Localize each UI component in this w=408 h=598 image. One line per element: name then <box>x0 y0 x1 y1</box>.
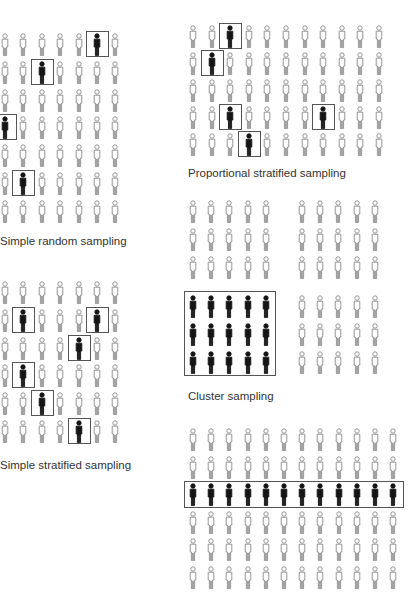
person-icon <box>245 52 253 76</box>
person-icon <box>353 323 361 347</box>
person-icon <box>75 61 83 85</box>
person-icon <box>375 25 383 49</box>
person-icon <box>75 200 83 224</box>
person-icon <box>38 144 46 168</box>
person-icon <box>353 456 361 480</box>
person-icon <box>280 428 288 452</box>
person-icon <box>207 538 215 562</box>
person-icon <box>298 256 306 280</box>
person-icon <box>1 364 9 388</box>
person-icon <box>298 511 306 535</box>
person-icon <box>338 79 346 103</box>
person-icon <box>335 456 343 480</box>
person-icon <box>334 351 342 375</box>
person-icon <box>207 228 215 252</box>
person-icon <box>371 511 379 535</box>
person-icon <box>19 337 27 361</box>
person-icon <box>1 420 9 444</box>
selection-box <box>0 114 17 140</box>
person-icon <box>1 309 9 333</box>
person-icon <box>335 511 343 535</box>
person-icon <box>316 228 324 252</box>
person-icon <box>111 61 119 85</box>
person-icon <box>244 228 252 252</box>
person-icon <box>353 511 361 535</box>
person-icon <box>189 256 197 280</box>
person-icon <box>335 566 343 590</box>
person-icon <box>244 566 252 590</box>
person-icon <box>282 133 290 157</box>
person-icon <box>56 116 64 140</box>
person-icon <box>75 33 83 57</box>
person-icon <box>298 295 306 319</box>
person-icon <box>207 456 215 480</box>
person-icon <box>19 392 27 416</box>
person-icon <box>111 200 119 224</box>
person-icon <box>298 538 306 562</box>
person-icon <box>1 337 9 361</box>
person-icon <box>208 25 216 49</box>
person-icon <box>189 456 197 480</box>
person-icon <box>93 337 101 361</box>
person-icon <box>356 133 364 157</box>
person-icon <box>111 309 119 333</box>
person-icon <box>244 511 252 535</box>
person-icon <box>375 79 383 103</box>
person-icon <box>1 392 9 416</box>
person-icon <box>353 200 361 224</box>
person-icon <box>301 79 309 103</box>
person-icon <box>262 256 270 280</box>
person-icon <box>316 323 324 347</box>
person-icon <box>1 33 9 57</box>
person-icon <box>207 566 215 590</box>
person-icon <box>189 133 197 157</box>
person-icon <box>353 538 361 562</box>
person-icon <box>262 428 270 452</box>
person-icon <box>338 52 346 76</box>
person-icon <box>375 106 383 130</box>
person-icon <box>93 200 101 224</box>
person-icon <box>389 456 397 480</box>
person-icon <box>371 538 379 562</box>
person-icon <box>298 428 306 452</box>
person-icon <box>356 106 364 130</box>
person-icon <box>225 428 233 452</box>
person-icon <box>75 364 83 388</box>
person-icon <box>111 172 119 196</box>
selection-box <box>238 131 261 157</box>
person-icon <box>189 52 197 76</box>
person-icon <box>371 428 379 452</box>
person-icon <box>371 323 379 347</box>
simple-random-caption: Simple random sampling <box>0 235 127 247</box>
person-icon <box>19 89 27 113</box>
person-icon <box>353 428 361 452</box>
person-icon <box>93 392 101 416</box>
person-icon <box>245 79 253 103</box>
person-icon <box>356 25 364 49</box>
person-icon <box>75 309 83 333</box>
person-icon <box>245 106 253 130</box>
person-icon <box>19 200 27 224</box>
person-icon <box>225 538 233 562</box>
person-icon <box>280 566 288 590</box>
person-icon <box>375 133 383 157</box>
person-icon <box>111 364 119 388</box>
person-icon <box>111 144 119 168</box>
person-icon <box>38 172 46 196</box>
person-icon <box>75 116 83 140</box>
person-icon <box>207 256 215 280</box>
cluster-sampling-caption: Cluster sampling <box>188 390 274 402</box>
person-icon <box>301 25 309 49</box>
person-icon <box>225 456 233 480</box>
person-icon <box>245 25 253 49</box>
person-icon <box>282 25 290 49</box>
person-icon <box>225 228 233 252</box>
person-icon <box>298 200 306 224</box>
person-icon <box>75 89 83 113</box>
person-icon <box>316 511 324 535</box>
person-icon <box>371 351 379 375</box>
person-icon <box>334 295 342 319</box>
person-icon <box>301 133 309 157</box>
person-icon <box>19 420 27 444</box>
person-icon <box>93 116 101 140</box>
